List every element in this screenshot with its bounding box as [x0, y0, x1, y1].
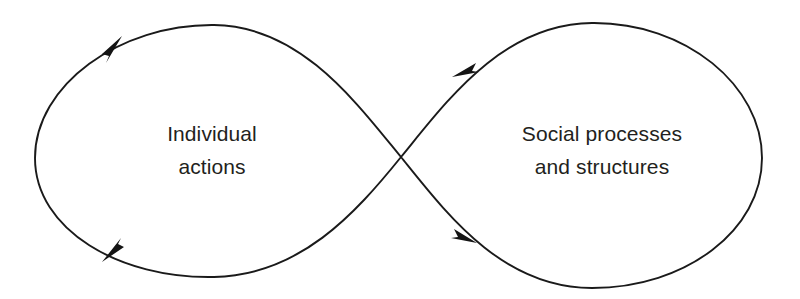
node-label-individual-actions-line1: Individual — [90, 118, 334, 151]
node-label-social-processes: Social processes and structures — [452, 118, 752, 183]
node-label-social-processes-line2: and structures — [452, 151, 752, 184]
node-label-social-processes-line1: Social processes — [452, 118, 752, 151]
node-label-individual-actions-line2: actions — [90, 151, 334, 184]
arrow-top-left-icon — [102, 36, 122, 63]
figure-eight-diagram: Individual actions Social processes and … — [0, 0, 800, 299]
arrow-bottom-right-icon — [451, 229, 477, 243]
node-label-individual-actions: Individual actions — [90, 118, 334, 183]
